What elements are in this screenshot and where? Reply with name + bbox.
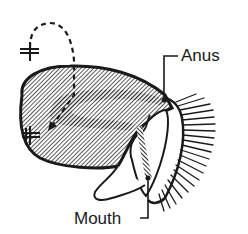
mouth-point xyxy=(146,176,151,181)
anus-point xyxy=(162,98,167,103)
anus-leader xyxy=(164,56,178,98)
label-anus: Anus xyxy=(181,47,220,64)
label-mouth: Mouth xyxy=(74,210,121,227)
cross-symbol-top xyxy=(20,42,39,61)
organism-diagram xyxy=(0,0,248,234)
